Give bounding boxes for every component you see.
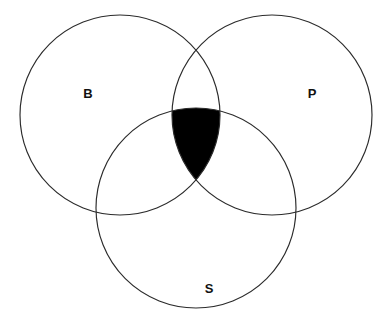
set-label-b: B	[83, 86, 92, 101]
set-label-p: P	[308, 86, 317, 101]
venn-diagram-canvas: B P S	[0, 0, 392, 327]
venn-diagram-figure: B P S	[0, 0, 392, 327]
set-label-s: S	[205, 281, 214, 296]
